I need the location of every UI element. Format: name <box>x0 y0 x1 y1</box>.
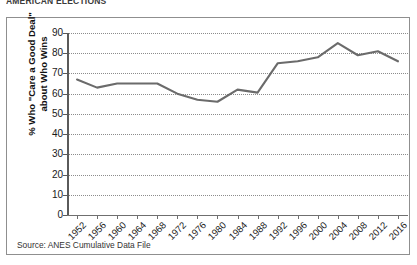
x-tick-mark-1984 <box>238 215 239 219</box>
x-tick-label-1984: 1984 <box>227 220 249 242</box>
x-tick-mark-1964 <box>137 215 138 219</box>
plot-area: 9080706050403020100 % Who "Care a Good D… <box>7 18 411 256</box>
y-tick-mark-10 <box>63 195 67 196</box>
plot-canvas <box>67 33 408 215</box>
x-tick-label-1956: 1956 <box>86 220 108 242</box>
y-tick-label-0: 0 <box>41 210 63 220</box>
x-tick-mark-1968 <box>157 215 158 219</box>
y-tick-mark-80 <box>63 53 67 54</box>
y-axis-title: % Who "Care a Good Deal" about Who Wins <box>26 0 50 159</box>
x-tick-mark-1988 <box>258 215 259 219</box>
x-tick-label-1972: 1972 <box>166 220 188 242</box>
x-tick-label-2008: 2008 <box>347 220 369 242</box>
x-tick-label-1976: 1976 <box>186 220 208 242</box>
series-polyline <box>77 43 398 102</box>
y-tick-label-10: 10 <box>41 190 63 200</box>
x-tick-mark-1960 <box>117 215 118 219</box>
x-tick-label-2016: 2016 <box>387 220 409 242</box>
x-tick-mark-1956 <box>97 215 98 219</box>
series-line-chart <box>67 33 408 215</box>
x-tick-label-2000: 2000 <box>307 220 329 242</box>
y-axis-title-line2: about Who Wins <box>38 36 49 111</box>
x-tick-mark-2004 <box>338 215 339 219</box>
x-tick-label-2012: 2012 <box>367 220 389 242</box>
x-tick-mark-1980 <box>217 215 218 219</box>
x-tick-mark-1996 <box>298 215 299 219</box>
chart-frame: 9080706050403020100 % Who "Care a Good D… <box>6 17 410 255</box>
y-tick-label-20: 20 <box>41 170 63 180</box>
x-tick-mark-2012 <box>378 215 379 219</box>
x-tick-label-1980: 1980 <box>206 220 228 242</box>
y-tick-mark-30 <box>63 154 67 155</box>
x-tick-mark-2016 <box>398 215 399 219</box>
y-tick-mark-60 <box>63 94 67 95</box>
x-tick-label-1960: 1960 <box>106 220 128 242</box>
y-axis-title-line1: % Who "Care a Good Deal" <box>26 12 37 136</box>
y-tick-mark-40 <box>63 134 67 135</box>
x-tick-mark-2000 <box>318 215 319 219</box>
x-tick-mark-1972 <box>177 215 178 219</box>
x-tick-label-1968: 1968 <box>146 220 168 242</box>
y-axis-line <box>67 33 69 215</box>
x-tick-label-1996: 1996 <box>287 220 309 242</box>
y-tick-mark-50 <box>63 114 67 115</box>
y-tick-mark-20 <box>63 175 67 176</box>
y-tick-mark-90 <box>63 33 67 34</box>
x-tick-label-2004: 2004 <box>327 220 349 242</box>
y-tick-mark-70 <box>63 73 67 74</box>
x-tick-label-1992: 1992 <box>267 220 289 242</box>
source-note: Source: ANES Cumulative Data File <box>17 240 151 250</box>
x-tick-label-1964: 1964 <box>126 220 148 242</box>
x-tick-mark-1952 <box>77 215 78 219</box>
x-tick-mark-1992 <box>278 215 279 219</box>
figure: AMERICAN ELECTIONS 9080706050403020100 %… <box>0 0 417 265</box>
x-tick-label-1988: 1988 <box>247 220 269 242</box>
x-tick-mark-2008 <box>358 215 359 219</box>
x-tick-mark-1976 <box>197 215 198 219</box>
x-tick-label-1952: 1952 <box>66 220 88 242</box>
